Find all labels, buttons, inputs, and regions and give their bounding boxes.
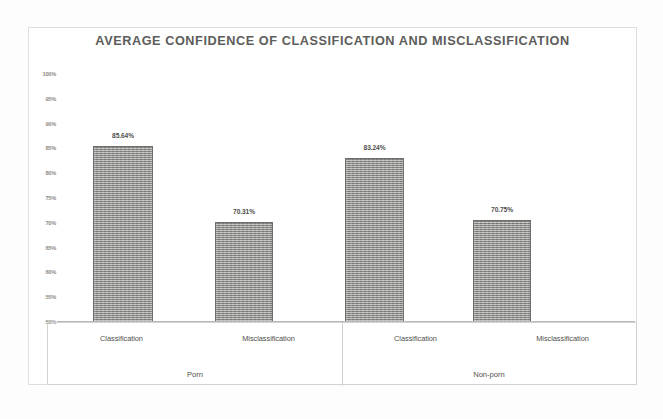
y-axis-tick-labels: 100%95%90%85%80%75%70%65%60%55%50% <box>22 68 56 328</box>
y-axis-tick-65: 65% <box>22 245 56 251</box>
y-axis-tick-85: 85% <box>22 145 56 151</box>
category-label: Misclassification <box>242 334 295 343</box>
y-axis-tick-80: 80% <box>22 170 56 176</box>
category-cell-3: Classification <box>342 323 489 353</box>
bar-value-label-4: 70.75% <box>466 205 538 214</box>
category-label: Misclassification <box>536 334 589 343</box>
y-axis-tick-70: 70% <box>22 220 56 226</box>
category-label: Classification <box>100 334 143 343</box>
plot-area: 85.64%70.31%83.24%70.75% <box>57 70 635 322</box>
category-cell-1: Classification <box>48 323 195 353</box>
y-axis-tick-75: 75% <box>22 195 56 201</box>
bar-4 <box>473 220 531 323</box>
group-divider-line <box>342 323 343 386</box>
category-cell-4: Misclassification <box>489 323 636 353</box>
group-label: Porn <box>187 370 203 379</box>
chart-title: AVERAGE CONFIDENCE OF CLASSIFICATION AND… <box>76 33 588 48</box>
category-label: Classification <box>394 334 437 343</box>
group-label: Non-porn <box>473 370 505 379</box>
bar-value-label-2: 70.31% <box>208 207 280 216</box>
y-axis-tick-100: 100% <box>22 71 56 77</box>
bar-1 <box>93 146 153 322</box>
y-axis-tick-55: 55% <box>22 294 56 300</box>
x-axis-category-table: ClassificationMisclassificationClassific… <box>47 322 637 385</box>
bar-value-label-1: 85.64% <box>86 131 160 140</box>
bar-3 <box>345 158 404 322</box>
group-cell-1: Porn <box>48 353 342 385</box>
y-axis-tick-90: 90% <box>22 121 56 127</box>
group-cell-2: Non-porn <box>342 353 636 385</box>
bar-2 <box>215 222 273 322</box>
chart-screenshot: AVERAGE CONFIDENCE OF CLASSIFICATION AND… <box>0 0 663 419</box>
bar-value-label-3: 83.24% <box>338 143 411 152</box>
category-cell-2: Misclassification <box>195 323 342 353</box>
y-axis-tick-60: 60% <box>22 269 56 275</box>
y-axis-tick-95: 95% <box>22 96 56 102</box>
